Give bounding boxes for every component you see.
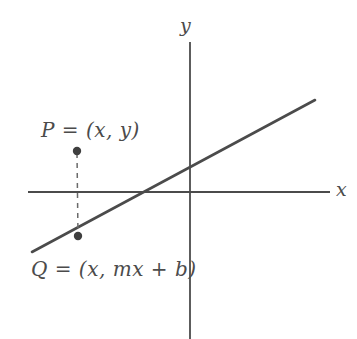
axes-group <box>28 42 330 339</box>
point-q-marker <box>74 232 82 240</box>
vertical-distance-dashed-line <box>77 153 78 236</box>
point-p-label: P = (x, y) <box>41 120 140 140</box>
figure-container: P = (x, y) Q = (x, mx + b) y x <box>0 0 357 339</box>
y-axis-label: y <box>180 16 191 35</box>
coordinate-plane-svg <box>0 0 357 339</box>
point-q-label: Q = (x, mx + b) <box>31 259 197 279</box>
x-axis-label: x <box>336 180 347 199</box>
vertical-distance-group <box>77 153 78 236</box>
point-p-marker <box>73 147 81 155</box>
